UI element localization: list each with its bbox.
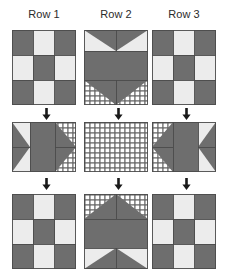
block-row3-middle-flying-geese-left (152, 122, 216, 172)
block-row2-bottom-flying-geese-up (84, 194, 148, 269)
block-row1-middle-flying-geese-right (12, 122, 76, 172)
nine-patch-cells (152, 194, 216, 269)
nine-patch-cells (12, 30, 76, 105)
arrow-down-icon-col1-top (42, 108, 51, 120)
block-row3-top-nine-patch (152, 30, 216, 105)
geese-unit-center-bar (173, 122, 198, 172)
block-row1-bottom-nine-patch (12, 194, 76, 269)
column-label-row2: Row 2 (84, 8, 148, 20)
arrow-down-icon-col1-bottom (42, 178, 51, 190)
block-row1-top-nine-patch (12, 30, 76, 105)
geese-unit-center-bar (30, 122, 55, 172)
nine-patch-cells (152, 30, 216, 105)
nine-patch-cells (12, 194, 76, 269)
column-label-row1: Row 1 (12, 8, 76, 20)
arrow-down-icon-col2-top (114, 108, 123, 120)
quilt-assembly-diagram: Row 1 Row 2 Row 3 (0, 0, 226, 272)
plaid-fill (84, 122, 148, 172)
block-row2-top-flying-geese-down (84, 30, 148, 105)
arrow-down-icon-col3-top (182, 108, 191, 120)
geese-unit-middle-bar (84, 219, 148, 248)
block-row3-bottom-nine-patch (152, 194, 216, 269)
arrow-down-icon-col2-bottom (114, 178, 123, 190)
column-label-row3: Row 3 (152, 8, 216, 20)
arrow-down-icon-col3-bottom (182, 178, 191, 190)
geese-unit-middle-bar (84, 51, 148, 80)
block-row2-middle-plaid-square (84, 122, 148, 172)
